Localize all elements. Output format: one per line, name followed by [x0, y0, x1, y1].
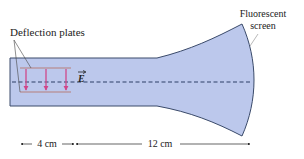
- deflection-plates-label: Deflection plates: [10, 26, 85, 38]
- screen-label-line1: Fluorescent: [240, 8, 287, 19]
- plate-length-label: 4 cm: [37, 138, 57, 149]
- drift-length-label: 12 cm: [148, 138, 173, 149]
- leader-screen: [250, 34, 258, 46]
- field-label: E: [77, 73, 85, 84]
- screen-label-line2: screen: [250, 20, 276, 31]
- crt-diagram: E Deflection plates Fluorescent screen 4…: [0, 0, 304, 159]
